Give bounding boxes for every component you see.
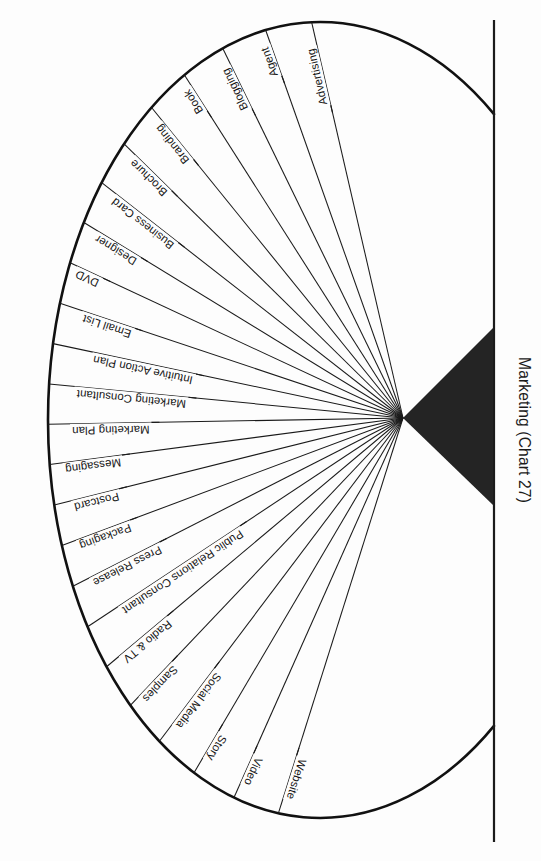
leader-dash [254,746,257,753]
leader-dash [141,257,148,261]
leader-dash [219,724,223,731]
spoke-label: Marketing Consultant [75,388,186,411]
spoke-label: Social Media [174,671,224,732]
leader-dash [240,522,247,526]
chart-title: Marketing (Chart 27) [516,357,533,503]
leader-dash [172,191,178,197]
spoke-label: Radio & TV [121,618,174,665]
spoke-label: Email List [80,313,132,341]
leader-dash [214,662,219,668]
spoke-line [48,418,403,424]
spoke-label: Press Release [91,544,164,589]
leader-dash [282,76,285,84]
leader-dash [119,487,127,489]
chart-page: WebsiteVideoStorySocial MediaSamplesRadi… [0,0,541,861]
spoke-line [312,22,403,418]
spoke-label: Business Card [109,196,176,252]
spokes-group [48,22,403,813]
spoke-label: Brochure [128,157,170,199]
spoke-label: Website [285,758,309,801]
leader-dash [167,611,173,616]
leader-dash [196,374,204,376]
spoke-line [53,344,403,418]
leader-dash [207,111,211,118]
marketing-fan-diagram: WebsiteVideoStorySocial MediaSamplesRadi… [0,0,541,861]
spoke-line [266,30,403,418]
spoke-label: Branding [153,123,192,167]
leader-dash [252,108,256,115]
leader-dash [103,278,110,281]
spoke-label: Advertising [305,47,330,106]
leader-dash [172,655,178,661]
chart-title-group: Marketing (Chart 27) [516,357,533,503]
leader-dash [188,397,196,398]
hub-group [403,328,493,505]
leader-dash [297,748,299,756]
spoke-line [102,183,403,418]
spoke-label: Samples [141,664,181,705]
leader-dash [160,538,167,542]
leader-dash [178,242,184,247]
leader-dash [194,159,199,165]
leader-dash [331,105,333,113]
spoke-line [130,418,403,705]
leader-dash [130,517,137,520]
spoke-line [152,108,403,419]
spoke-label: Marketing Plan [72,424,150,437]
hub-triangle [403,328,493,505]
leader-dash [122,454,130,455]
spoke-label: Designer [93,233,139,268]
leader-dash [135,328,143,331]
